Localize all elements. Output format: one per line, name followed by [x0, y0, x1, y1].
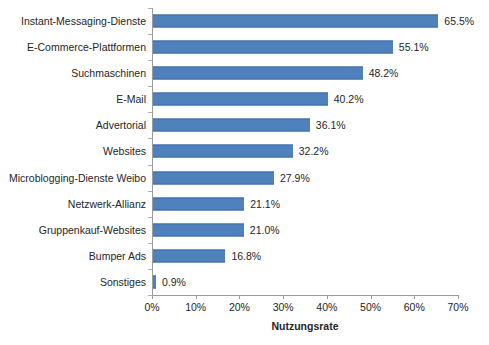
x-axis-tick-label: 0% [144, 301, 159, 313]
y-axis-line [152, 8, 153, 295]
bar[interactable] [152, 67, 363, 80]
bar-row: Advertorial36.1% [152, 112, 458, 138]
bar-value-label: 0.9% [156, 276, 186, 288]
bar-row: Microblogging-Dienste Weibo27.9% [152, 165, 458, 191]
plot-area: Instant-Messaging-Dienste65.5%E-Commerce… [152, 8, 458, 295]
bar-value-label: 21.1% [244, 198, 280, 210]
x-axis-tick [414, 295, 415, 299]
x-axis-tick-label: 70% [447, 301, 468, 313]
bar-row: Websites32.2% [152, 138, 458, 164]
x-axis-tick [283, 295, 284, 299]
bar[interactable] [152, 93, 328, 106]
bar-value-label: 27.9% [274, 172, 310, 184]
bar-value-label: 16.8% [225, 250, 261, 262]
category-label: Netzwerk-Allianz [4, 198, 146, 210]
bar-row: Instant-Messaging-Dienste65.5% [152, 8, 458, 34]
x-axis-tick-label: 60% [404, 301, 425, 313]
bar-value-label: 21.0% [244, 224, 280, 236]
x-axis-tick-label: 40% [316, 301, 337, 313]
bar-value-label: 36.1% [310, 119, 346, 131]
x-axis-tick-label: 10% [185, 301, 206, 313]
x-axis-tick [196, 295, 197, 299]
x-axis-tick-label: 30% [273, 301, 294, 313]
bar-row: E-Mail40.2% [152, 86, 458, 112]
bar-row: Netzwerk-Allianz21.1% [152, 191, 458, 217]
bar-value-label: 65.5% [438, 15, 474, 27]
bar[interactable] [152, 249, 225, 262]
category-label: E-Mail [4, 93, 146, 105]
category-label: E-Commerce-Plattformen [4, 41, 146, 53]
category-label: Bumper Ads [4, 250, 146, 262]
bar-value-label: 40.2% [328, 93, 364, 105]
category-label: Suchmaschinen [4, 67, 146, 79]
bar-value-label: 55.1% [393, 41, 429, 53]
category-label: Instant-Messaging-Dienste [4, 15, 146, 27]
bar[interactable] [152, 145, 293, 158]
x-axis-tick [458, 295, 459, 299]
bar-row: Suchmaschinen48.2% [152, 60, 458, 86]
x-axis-tick-label: 20% [229, 301, 250, 313]
category-label: Sonstiges [4, 276, 146, 288]
x-axis-tick [152, 295, 153, 299]
category-label: Gruppenkauf-Websites [4, 224, 146, 236]
bar[interactable] [152, 197, 244, 210]
bar[interactable] [152, 41, 393, 54]
x-axis-tick [371, 295, 372, 299]
bar-value-label: 48.2% [363, 67, 399, 79]
bar[interactable] [152, 15, 438, 28]
category-label: Microblogging-Dienste Weibo [4, 172, 146, 184]
bar-row: Sonstiges0.9% [152, 269, 458, 295]
bar-row: Gruppenkauf-Websites21.0% [152, 217, 458, 243]
bar-row: E-Commerce-Plattformen55.1% [152, 34, 458, 60]
category-label: Advertorial [4, 119, 146, 131]
x-axis-tick [239, 295, 240, 299]
x-axis-tick-label: 50% [360, 301, 381, 313]
bar-row: Bumper Ads16.8% [152, 243, 458, 269]
bar[interactable] [152, 223, 244, 236]
category-label: Websites [4, 145, 146, 157]
bar-chart: Instant-Messaging-Dienste65.5%E-Commerce… [0, 0, 489, 345]
x-axis-title: Nutzungsrate [152, 320, 458, 332]
x-axis-line [152, 295, 458, 296]
x-axis-tick [327, 295, 328, 299]
bar[interactable] [152, 119, 310, 132]
bar[interactable] [152, 171, 274, 184]
bar-value-label: 32.2% [293, 145, 329, 157]
